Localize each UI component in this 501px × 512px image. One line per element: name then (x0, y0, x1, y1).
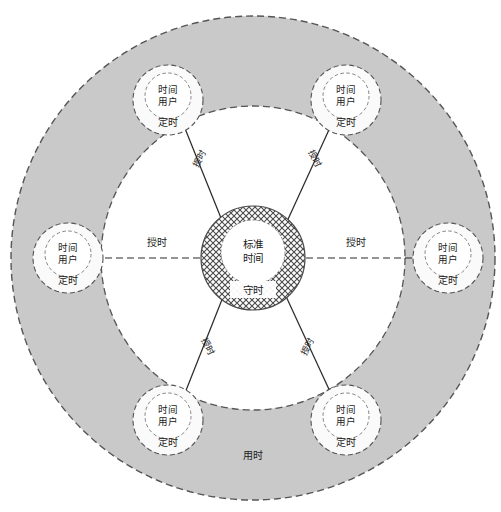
node-top-left[interactable]: 时间 用户 定时 (133, 65, 203, 135)
node-top-right[interactable]: 时间 用户 定时 (311, 65, 381, 135)
edge-label-to-left: 授时 (147, 236, 167, 248)
node-label-line1: 时间 (58, 242, 78, 253)
node-sub-label: 定时 (438, 274, 458, 286)
node-sub-label: 定时 (336, 116, 356, 128)
diagram-canvas: 标准 时间 守时 时间 用户 定时 时间 用户 定时 时间 用户 定时 (0, 0, 501, 512)
node-label-line2: 用户 (336, 416, 356, 427)
node-label-line1: 时间 (158, 84, 178, 95)
node-label-line2: 用户 (158, 96, 178, 107)
node-label-line2: 用户 (438, 254, 458, 265)
node-label-line2: 用户 (158, 416, 178, 427)
usage-ring-label: 用时 (243, 450, 263, 461)
node-label-line1: 时间 (158, 404, 178, 415)
node-label-line2: 用户 (336, 96, 356, 107)
core-label-line2: 时间 (243, 252, 263, 264)
node-sub-label: 定时 (158, 436, 178, 448)
node-sub-label: 定时 (158, 116, 178, 128)
node-label-line1: 时间 (438, 242, 458, 253)
node-right[interactable]: 时间 用户 定时 (413, 223, 483, 293)
edge-label-to-right: 授时 (346, 236, 366, 248)
core-label-line1: 标准 (243, 238, 263, 250)
node-label-line1: 时间 (336, 404, 356, 415)
core-sub-label: 守时 (243, 284, 264, 296)
node-sub-label: 定时 (336, 436, 356, 448)
node-sub-label: 定时 (58, 274, 78, 286)
node-left[interactable]: 时间 用户 定时 (33, 223, 103, 293)
node-bottom-right[interactable]: 时间 用户 定时 (311, 385, 381, 455)
standard-time-core[interactable]: 标准 时间 守时 (201, 206, 305, 310)
node-label-line2: 用户 (58, 254, 78, 265)
time-service-diagram: 标准 时间 守时 时间 用户 定时 时间 用户 定时 时间 用户 定时 (0, 0, 501, 512)
node-bottom-left[interactable]: 时间 用户 定时 (133, 385, 203, 455)
node-label-line1: 时间 (336, 84, 356, 95)
